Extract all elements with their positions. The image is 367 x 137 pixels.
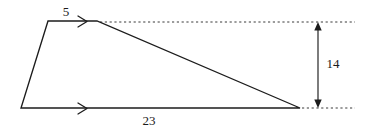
geometry-figure: 5 23 14 [0, 0, 367, 137]
height-dimension-arrowhead-up-icon [314, 22, 321, 31]
bottom-side-length-label: 23 [143, 113, 156, 128]
trapezoid-diagram-svg: 5 23 14 [0, 0, 367, 137]
height-label: 14 [327, 56, 341, 71]
trapezoid-outline [21, 21, 300, 108]
top-side-length-label: 5 [63, 4, 70, 19]
height-dimension-arrowhead-down-icon [314, 100, 321, 109]
